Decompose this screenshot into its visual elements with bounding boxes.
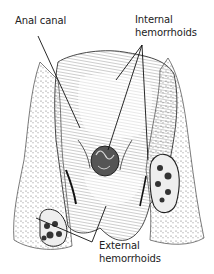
label-external-hemorrhoids-line2: hemorrhoids bbox=[99, 253, 161, 265]
right-sphincter bbox=[150, 154, 179, 212]
illustration: Anal canal Internal hemorrhoids External… bbox=[0, 0, 214, 274]
label-external-hemorrhoids-line1: External bbox=[99, 240, 140, 252]
label-anal-canal: Anal canal bbox=[15, 15, 66, 27]
internal-hemorrhoid-mass bbox=[91, 146, 119, 176]
label-internal-hemorrhoids-line1: Internal bbox=[135, 14, 173, 26]
label-internal-hemorrhoids-line2: hemorrhoids bbox=[135, 27, 197, 39]
anatomy-drawing bbox=[0, 0, 214, 274]
